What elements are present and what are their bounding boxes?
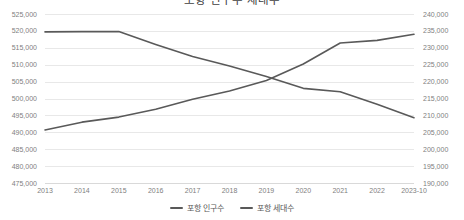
axis-tick-label: 205,000 [423, 129, 448, 136]
axis-tick-label: 505,000 [12, 78, 37, 85]
x-axis-tick-label: 2020 [296, 187, 312, 195]
y-axis-left: 475,000480,000485,000490,000495,000500,0… [0, 14, 41, 183]
chart-title: 포항 인구수 세대수 [0, 0, 464, 7]
x-axis-tick-label: 2023-10 [401, 187, 427, 195]
x-axis-tick-label: 2014 [74, 187, 90, 195]
axis-tick-label: 525,000 [12, 11, 37, 18]
axis-tick-label: 480,000 [12, 163, 37, 170]
axis-tick-label: 490,000 [12, 129, 37, 136]
legend-item[interactable]: 포항 세대수 [240, 204, 294, 213]
axis-tick-label: 225,000 [423, 61, 448, 68]
legend-item[interactable]: 포항 인구수 [170, 204, 224, 213]
axis-tick-label: 495,000 [12, 112, 37, 119]
axis-tick-label: 235,000 [423, 27, 448, 34]
series-line [45, 34, 414, 130]
axis-tick-label: 485,000 [12, 146, 37, 153]
axis-tick-label: 475,000 [12, 180, 37, 187]
y-axis-right: 190,000195,000200,000205,000210,000215,0… [418, 14, 464, 183]
chart-legend: 포항 인구수포항 세대수 [0, 201, 464, 215]
plot-area [45, 14, 414, 183]
x-axis-tick-label: 2013 [37, 187, 53, 195]
x-axis-tick-label: 2021 [332, 187, 348, 195]
axis-tick-label: 215,000 [423, 95, 448, 102]
legend-swatch-icon [170, 207, 183, 209]
x-axis-tick-label: 2017 [185, 187, 201, 195]
axis-tick-label: 190,000 [423, 180, 448, 187]
x-axis: 2013201420152016201720182019202020212022… [45, 184, 414, 200]
axis-tick-label: 240,000 [423, 11, 448, 18]
axis-tick-label: 500,000 [12, 95, 37, 102]
axis-tick-label: 515,000 [12, 44, 37, 51]
axis-tick-label: 220,000 [423, 78, 448, 85]
axis-tick-label: 520,000 [12, 27, 37, 34]
x-axis-tick-label: 2022 [369, 187, 385, 195]
x-axis-tick-label: 2019 [259, 187, 275, 195]
axis-tick-label: 200,000 [423, 146, 448, 153]
series-layer [45, 14, 414, 183]
legend-label: 포항 세대수 [257, 204, 294, 213]
legend-label: 포항 인구수 [187, 204, 224, 213]
x-axis-tick-label: 2018 [222, 187, 238, 195]
axis-tick-label: 230,000 [423, 44, 448, 51]
chart-container: 포항 인구수 세대수 475,000480,000485,000490,0004… [0, 0, 464, 220]
axis-tick-label: 510,000 [12, 61, 37, 68]
axis-tick-label: 195,000 [423, 163, 448, 170]
axis-tick-label: 210,000 [423, 112, 448, 119]
x-axis-tick-label: 2016 [148, 187, 164, 195]
x-axis-tick-label: 2015 [111, 187, 127, 195]
series-line [45, 32, 414, 118]
legend-swatch-icon [240, 207, 253, 209]
